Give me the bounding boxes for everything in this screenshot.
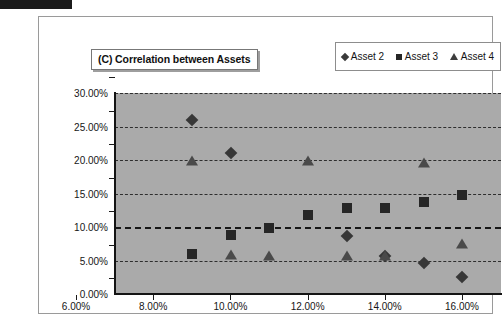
- y-axis-tick: [109, 211, 115, 212]
- legend-label: Asset 4: [461, 51, 494, 62]
- y-axis-tick: [109, 178, 115, 179]
- y-axis-line: [114, 92, 116, 295]
- square-marker-icon: [396, 54, 402, 60]
- data-point-triangle: [263, 250, 275, 260]
- y-axis-tick: [109, 245, 115, 246]
- y-axis-tick-label: 20.00%: [46, 155, 108, 166]
- y-axis-tick: [109, 278, 115, 279]
- data-point-triangle: [186, 156, 198, 166]
- data-point-triangle: [225, 250, 237, 260]
- x-axis-tick: [385, 295, 386, 300]
- legend-label: Asset 2: [351, 51, 384, 62]
- x-axis-tick-label: 6.00%: [62, 301, 90, 312]
- data-point-triangle: [302, 156, 314, 166]
- y-axis-tick: [109, 77, 115, 78]
- y-axis-tick-label: 25.00%: [46, 121, 108, 132]
- gridline: [115, 127, 501, 128]
- data-point-square: [419, 197, 429, 207]
- y-axis-tick-label: 0.00%: [46, 289, 108, 300]
- data-point-diamond: [224, 147, 237, 160]
- data-point-triangle: [418, 158, 430, 168]
- legend-item-asset-4: Asset 4: [450, 51, 494, 62]
- x-axis-tick: [153, 295, 154, 300]
- y-axis-tick-label: 5.00%: [46, 255, 108, 266]
- legend-item-asset-2: Asset 2: [342, 51, 384, 62]
- data-point-triangle: [456, 238, 468, 248]
- y-axis-tick-label: 15.00%: [46, 188, 108, 199]
- legend-label: Asset 3: [405, 51, 438, 62]
- plot-inner: [115, 93, 501, 294]
- data-point-diamond: [417, 256, 430, 269]
- x-axis-tick-label: 12.00%: [291, 301, 325, 312]
- data-point-diamond: [340, 230, 353, 243]
- scan-artifact-bar: [0, 0, 72, 9]
- data-point-diamond: [186, 113, 199, 126]
- gridline: [115, 93, 501, 94]
- triangle-marker-icon: [450, 53, 458, 60]
- x-axis-tick-label: 14.00%: [368, 301, 402, 312]
- data-point-square: [187, 249, 197, 259]
- data-point-square: [264, 223, 274, 233]
- chart-legend: Asset 2 Asset 3 Asset 4: [335, 42, 501, 71]
- x-axis-tick-label: 16.00%: [445, 301, 479, 312]
- chart-frame: (C) Correlation between Assets Asset 2 A…: [38, 16, 493, 314]
- y-axis-tick: [109, 144, 115, 145]
- data-point-square: [303, 210, 313, 220]
- x-axis-tick: [462, 295, 463, 300]
- chart-title-box: (C) Correlation between Assets: [91, 49, 258, 70]
- data-point-square: [342, 203, 352, 213]
- gridline: [115, 261, 501, 262]
- gridline: [115, 194, 501, 195]
- x-axis-tick-label: 10.00%: [213, 301, 247, 312]
- data-point-diamond: [456, 271, 469, 284]
- y-axis-tick-label: 10.00%: [46, 222, 108, 233]
- page-title: (C) Correlation between Assets: [98, 53, 250, 65]
- data-point-square: [226, 230, 236, 240]
- x-axis-tick: [76, 295, 77, 300]
- diamond-marker-icon: [341, 52, 349, 60]
- x-axis-tick: [230, 295, 231, 300]
- data-point-triangle: [379, 251, 391, 261]
- y-axis-tick: [109, 111, 115, 112]
- x-axis-tick: [308, 295, 309, 300]
- plot-area: [115, 93, 501, 294]
- data-point-square: [457, 190, 467, 200]
- legend-item-asset-3: Asset 3: [396, 51, 438, 62]
- y-axis-tick-label: 30.00%: [46, 88, 108, 99]
- data-point-square: [380, 203, 390, 213]
- x-axis-tick-label: 8.00%: [139, 301, 167, 312]
- gridline: [115, 227, 501, 229]
- data-point-triangle: [341, 250, 353, 260]
